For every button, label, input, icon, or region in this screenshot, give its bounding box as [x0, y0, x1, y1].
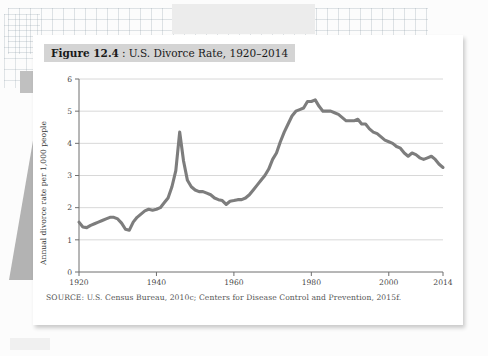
svg-text:6: 6	[67, 75, 72, 84]
figure-title-text: : U.S. Divorce Rate, 1920–2014	[122, 47, 288, 59]
chart-gridlines	[79, 79, 443, 240]
svg-text:2000: 2000	[379, 278, 398, 287]
y-axis-title: Annual divorce rate per 1,000 people	[39, 121, 48, 266]
figure-title-band: Figure 12.4 : U.S. Divorce Rate, 1920–20…	[44, 44, 295, 62]
x-axis: 192019401960198020002014	[69, 272, 452, 287]
svg-text:1960: 1960	[224, 278, 243, 287]
page-top-smudge	[172, 4, 315, 34]
svg-text:1: 1	[67, 236, 72, 245]
svg-text:1980: 1980	[302, 278, 321, 287]
svg-text:5: 5	[67, 107, 72, 116]
svg-text:2014: 2014	[433, 278, 452, 287]
figure-number-label: Figure 12.4	[51, 47, 119, 59]
svg-text:4: 4	[67, 139, 72, 148]
y-axis: 0123456	[67, 75, 79, 277]
figure-source-note: SOURCE: U.S. Census Bureau, 2010c; Cente…	[46, 293, 401, 302]
chart-plot-area: 0123456 192019401960198020002014 Annual …	[33, 65, 463, 287]
svg-text:1920: 1920	[69, 278, 88, 287]
svg-text:1940: 1940	[147, 278, 166, 287]
figure-card: Figure 12.4 : U.S. Divorce Rate, 1920–20…	[33, 35, 463, 325]
gray-wedge-top	[20, 71, 34, 93]
divorce-rate-line-chart: 0123456 192019401960198020002014 Annual …	[33, 65, 463, 287]
svg-text:0: 0	[67, 268, 72, 277]
divorce-rate-series-line	[79, 100, 443, 230]
page-bottom-smudge	[10, 338, 50, 350]
svg-text:3: 3	[67, 171, 72, 180]
svg-text:2: 2	[67, 203, 72, 212]
